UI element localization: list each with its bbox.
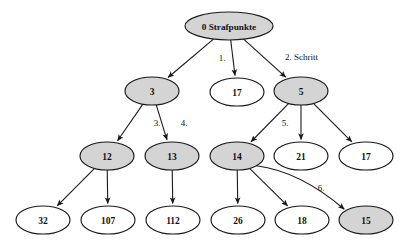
node-label: 32 <box>38 216 48 226</box>
node-label: 17 <box>361 152 371 162</box>
node-label: 26 <box>233 216 243 226</box>
node-label: 107 <box>101 216 116 226</box>
nodes-layer: 0 Strafpunkte317512131421173210711226181… <box>16 12 393 234</box>
tree-edge <box>172 170 173 204</box>
tree-node[interactable]: 17 <box>210 78 264 106</box>
edge-step-label: 4. <box>181 118 188 128</box>
tree-node[interactable]: 107 <box>81 206 135 234</box>
node-label: 3 <box>150 87 155 97</box>
tree-node[interactable]: 32 <box>16 206 70 234</box>
tree-node[interactable]: 0 Strafpunkte <box>185 12 273 40</box>
tree-node[interactable]: 12 <box>80 142 134 170</box>
tree-node[interactable]: 5 <box>274 77 328 105</box>
tree-node[interactable]: 14 <box>210 142 264 170</box>
tree-edge <box>231 40 235 76</box>
node-label: 13 <box>167 152 177 162</box>
tree-edge <box>244 39 286 77</box>
node-label: 5 <box>299 87 304 97</box>
tree-edge <box>57 168 94 205</box>
node-label: 21 <box>296 152 306 162</box>
node-label: 12 <box>102 152 112 162</box>
tree-node[interactable]: 18 <box>275 206 329 234</box>
edge-step-label: 1. <box>219 53 226 63</box>
node-label: 17 <box>232 88 242 98</box>
tree-edge <box>168 39 213 77</box>
tree-node[interactable]: 13 <box>145 142 199 170</box>
tree-edge <box>118 104 143 141</box>
tree-edge <box>237 170 238 204</box>
tree-edge <box>250 168 288 205</box>
tree-node[interactable]: 3 <box>125 77 179 105</box>
edge-step-label: 5. <box>282 118 289 128</box>
edge-step-label: 6. <box>318 183 325 193</box>
tree-node[interactable]: 26 <box>211 206 265 234</box>
edge-labels-layer: 1.2. Schritt3.4.5.6. <box>154 52 325 193</box>
tree-node[interactable]: 17 <box>339 142 393 170</box>
tree-node[interactable]: 21 <box>274 142 328 170</box>
tree-node[interactable]: 15 <box>339 206 393 234</box>
search-tree-diagram: 1.2. Schritt3.4.5.6. 0 Strafpunkte317512… <box>0 0 407 249</box>
edge-step-label: 2. Schritt <box>285 52 318 62</box>
node-label: 112 <box>166 216 180 226</box>
tree-canvas: 1.2. Schritt3.4.5.6. 0 Strafpunkte317512… <box>0 0 407 249</box>
tree-node[interactable]: 112 <box>146 206 200 234</box>
edge-step-label: 3. <box>154 118 161 128</box>
node-label: 14 <box>232 152 242 162</box>
tree-edge <box>313 103 351 141</box>
tree-edge <box>107 170 108 204</box>
node-label: 18 <box>297 216 307 226</box>
node-label: 15 <box>361 216 371 226</box>
node-label: 0 Strafpunkte <box>202 22 256 32</box>
edges-layer <box>57 39 352 209</box>
